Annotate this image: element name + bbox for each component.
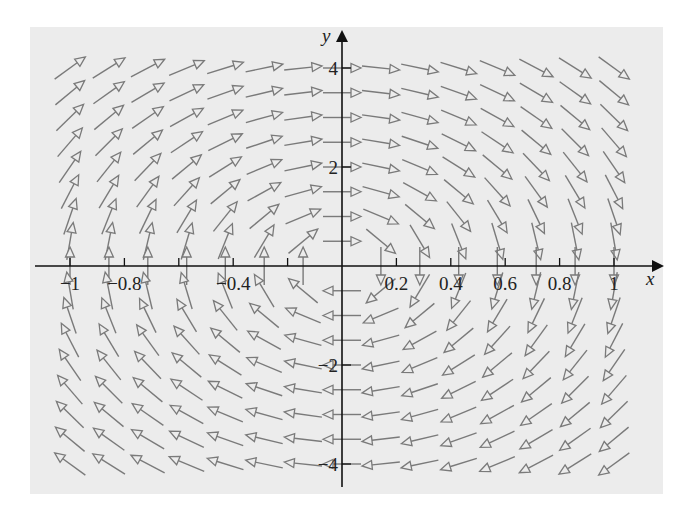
field-arrowhead-icon	[192, 108, 203, 117]
field-arrowhead-icon	[311, 136, 322, 145]
field-arrow-shaft	[246, 90, 275, 97]
field-arrowhead-icon	[389, 114, 400, 123]
field-arrowhead-icon	[443, 366, 454, 375]
field-arrowhead-icon	[114, 58, 125, 67]
field-arrow-shaft	[293, 337, 322, 345]
field-arrow-shaft	[409, 409, 438, 417]
field-arrow-shaft	[599, 81, 622, 100]
field-arrowhead-icon	[323, 286, 333, 295]
field-arrowhead-icon	[465, 117, 476, 125]
field-arrowhead-icon	[284, 434, 294, 443]
field-arrow-shaft	[255, 335, 281, 350]
field-arrow-shaft	[132, 111, 157, 128]
field-arrowhead-icon	[70, 175, 79, 186]
field-arrow-shaft	[526, 455, 553, 469]
field-arrow-shaft	[209, 161, 234, 177]
field-arrow-shaft	[93, 62, 118, 78]
field-arrow-shaft	[401, 112, 430, 120]
field-arrow-shaft	[449, 381, 476, 394]
field-arrowhead-icon	[542, 93, 553, 102]
field-arrow-shaft	[216, 359, 241, 375]
field-arrow-shaft	[100, 458, 125, 474]
field-arrowhead-icon	[75, 57, 86, 67]
field-arrowhead-icon	[140, 298, 148, 309]
field-arrow-shaft	[366, 229, 389, 248]
field-arrowhead-icon	[599, 466, 610, 476]
field-arrow-shaft	[292, 388, 322, 393]
field-arrow-shaft	[65, 330, 79, 357]
field-arrowhead-icon	[272, 111, 283, 120]
field-arrowhead-icon	[490, 298, 499, 309]
field-arrow-shaft	[605, 175, 619, 202]
field-arrow-shaft	[178, 358, 201, 377]
field-arrowhead-icon	[233, 61, 244, 70]
field-arrowhead-icon	[559, 465, 570, 474]
field-arrowhead-icon	[502, 143, 513, 152]
field-arrowhead-icon	[461, 221, 471, 232]
field-arrowhead-icon	[481, 415, 492, 424]
field-arrow-shaft	[102, 356, 121, 379]
field-arrowhead-icon	[466, 92, 477, 100]
field-arrowhead-icon	[466, 66, 477, 75]
field-arrowhead-icon	[185, 223, 194, 234]
y-tick-label: −2	[318, 355, 338, 376]
field-arrow-shaft	[93, 86, 117, 103]
field-arrow-shaft	[363, 209, 391, 221]
field-arrow-shaft	[490, 326, 510, 348]
field-arrowhead-icon	[284, 384, 295, 393]
field-arrow-shaft	[215, 410, 243, 422]
field-arrowhead-icon	[59, 349, 68, 360]
field-arrow-shaft	[401, 64, 430, 70]
field-arrow-shaft	[527, 430, 553, 445]
field-arrowhead-icon	[254, 274, 263, 285]
field-arrowhead-icon	[286, 308, 297, 316]
field-arrow-shaft	[519, 59, 546, 73]
field-arrowhead-icon	[270, 183, 281, 192]
field-arrowhead-icon	[401, 461, 412, 470]
field-arrowhead-icon	[171, 379, 182, 388]
field-arrowhead-icon	[231, 134, 242, 142]
field-arrowhead-icon	[611, 249, 620, 260]
field-arrowhead-icon	[323, 435, 333, 444]
field-arrow-shaft	[600, 104, 622, 125]
field-arrow-shaft	[284, 91, 314, 95]
field-arrowhead-icon	[525, 345, 535, 356]
field-arrow-shaft	[370, 437, 400, 441]
field-arrow-shaft	[444, 180, 467, 199]
field-arrowhead-icon	[389, 89, 399, 98]
x-axis-label: x	[645, 268, 655, 289]
field-arrow-shaft	[170, 112, 196, 127]
field-arrowhead-icon	[93, 428, 104, 437]
field-arrow-shaft	[131, 87, 157, 102]
field-arrow-shaft	[560, 105, 583, 124]
field-arrow-shaft	[181, 306, 196, 332]
field-arrowhead-icon	[323, 336, 333, 345]
field-arrowhead-icon	[428, 90, 439, 99]
field-arrow-shaft	[143, 306, 156, 333]
field-arrowhead-icon	[401, 437, 412, 446]
field-arrow-shaft	[58, 134, 78, 157]
x-tick-label: 1	[609, 273, 619, 294]
field-arrowhead-icon	[427, 141, 438, 150]
field-arrowhead-icon	[536, 223, 544, 234]
field-arrowhead-icon	[209, 355, 220, 364]
field-arrowhead-icon	[441, 462, 452, 471]
field-arrowhead-icon	[387, 216, 398, 224]
field-arrow-shaft	[100, 433, 124, 450]
field-arrow-shaft	[215, 436, 243, 446]
field-arrowhead-icon	[428, 65, 439, 74]
field-arrow-shaft	[362, 91, 392, 95]
field-arrowhead-icon	[187, 200, 196, 211]
field-arrow-shaft	[606, 401, 628, 422]
field-arrow-shaft	[607, 375, 627, 398]
field-arrowhead-icon	[137, 325, 147, 336]
field-arrowhead-icon	[403, 341, 414, 350]
field-arrow-shaft	[177, 409, 203, 424]
field-arrowhead-icon	[577, 171, 587, 182]
field-arrowhead-icon	[192, 132, 203, 141]
field-arrowhead-icon	[149, 176, 159, 187]
field-arrow-shaft	[488, 405, 514, 420]
field-arrow-shaft	[286, 212, 314, 224]
field-arrow-shaft	[488, 200, 503, 226]
field-arrow-shaft	[409, 384, 437, 393]
